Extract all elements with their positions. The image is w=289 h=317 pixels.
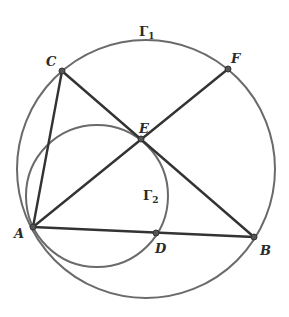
segment-cb xyxy=(62,71,254,237)
point-b xyxy=(251,234,257,240)
point-e xyxy=(138,136,144,142)
circle-gamma-1 xyxy=(17,40,275,298)
point-c xyxy=(59,68,65,74)
label-c: C xyxy=(46,54,57,69)
label-gamma-1: Γ1 xyxy=(139,24,155,41)
label-e: E xyxy=(138,121,150,136)
point-d xyxy=(153,230,159,236)
segment-ac xyxy=(33,71,62,227)
label-d: D xyxy=(154,241,167,256)
label-b: B xyxy=(259,243,271,258)
geometry-diagram: A B C D E F Γ1 Γ2 xyxy=(0,0,289,317)
point-f xyxy=(225,66,231,72)
label-a: A xyxy=(12,226,24,241)
label-gamma-2: Γ2 xyxy=(143,188,159,205)
point-a xyxy=(30,224,36,230)
label-f: F xyxy=(230,51,241,66)
segment-af xyxy=(33,69,228,227)
segment-ab xyxy=(33,227,254,237)
